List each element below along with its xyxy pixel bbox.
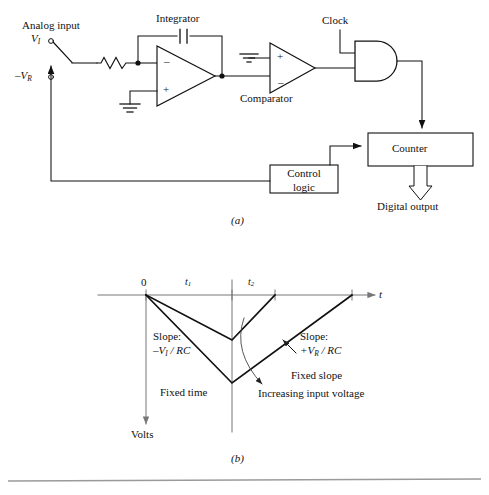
t2-label: t2 <box>248 276 254 288</box>
counter-label: Counter <box>392 142 427 154</box>
wire-opamp-plus-ground <box>130 91 157 104</box>
comparator-label: Comparator <box>240 92 293 104</box>
panel-a-caption: (a) <box>231 214 244 226</box>
integrator-minus-sign: – <box>164 55 170 67</box>
clock-label: Clock <box>322 14 348 26</box>
and-gate <box>355 41 397 81</box>
resistor-r <box>97 58 138 69</box>
switch-blade <box>54 43 73 63</box>
comparator-plus-sign: + <box>277 50 283 62</box>
increasing-input-voltage-label: Increasing input voltage <box>258 387 364 399</box>
figure-dual-slope-adc <box>0 0 489 495</box>
origin-label: 0 <box>141 276 147 288</box>
comparator-minus-sign: – <box>278 76 284 88</box>
volts-axis-label: Volts <box>131 428 153 440</box>
vref-label: –VR <box>15 69 32 83</box>
slope-left-label: Slope: –VI / RC <box>153 330 190 358</box>
analog-input-label: Analog input <box>22 19 80 31</box>
footer-rule <box>8 479 481 481</box>
digital-output-label: Digital output <box>377 200 438 212</box>
t-axis-label: t <box>379 288 382 300</box>
integrator-label: Integrator <box>156 12 199 24</box>
fixed-slope-pointer <box>283 340 296 353</box>
control-logic-label: Control logic <box>270 167 338 195</box>
terminal-vi <box>49 39 54 44</box>
wire-and-to-counter <box>397 61 422 128</box>
wire-control-to-counter <box>330 146 361 165</box>
integrator-plus-sign: + <box>163 83 169 95</box>
fixed-time-label: Fixed time <box>160 386 207 398</box>
fixed-slope-label: Fixed slope <box>291 369 342 381</box>
digital-output-bus-arrow <box>409 166 432 200</box>
slope-right-label: Slope: +VR / RC <box>300 330 341 358</box>
t1-label: t1 <box>185 276 191 288</box>
wire-clock-to-and <box>340 30 355 53</box>
panel-b-caption: (b) <box>231 452 244 464</box>
vi-label: VI <box>31 32 40 46</box>
